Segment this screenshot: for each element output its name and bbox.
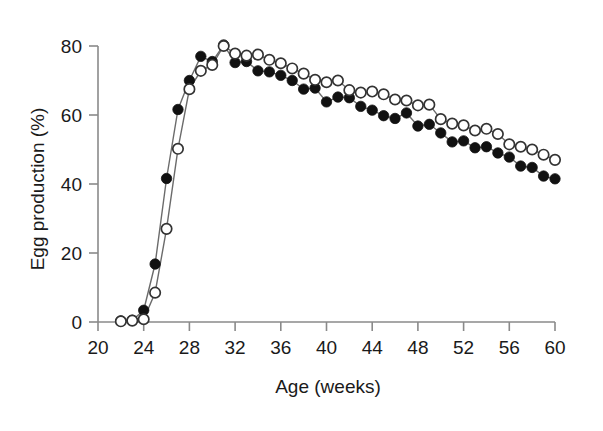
x-tick-label: 56	[499, 337, 520, 358]
data-point-open-circles	[356, 87, 366, 97]
data-point-open-circles	[230, 48, 240, 58]
data-point-closed-circles	[321, 97, 331, 107]
y-axis-ticks: 020406080	[61, 36, 98, 333]
data-point-closed-circles	[253, 66, 263, 76]
data-point-closed-circles	[447, 137, 457, 147]
data-point-open-circles	[116, 316, 126, 326]
x-tick-label: 40	[316, 337, 337, 358]
data-point-open-circles	[458, 120, 468, 130]
y-tick-label: 20	[61, 243, 82, 264]
data-point-open-circles	[333, 75, 343, 85]
data-point-open-circles	[470, 125, 480, 135]
data-point-open-circles	[390, 94, 400, 104]
data-point-closed-circles	[161, 173, 171, 183]
data-point-open-circles	[139, 314, 149, 324]
data-point-open-circles	[127, 315, 137, 325]
data-point-closed-circles	[287, 75, 297, 85]
x-axis-title: Age (weeks)	[198, 376, 458, 398]
data-point-closed-circles	[196, 51, 206, 61]
data-point-open-circles	[436, 114, 446, 124]
data-point-closed-circles	[401, 108, 411, 118]
chart-plot-area: 2024283236404448525660 020406080	[0, 0, 603, 431]
data-point-open-circles	[481, 124, 491, 134]
data-point-open-circles	[527, 144, 537, 154]
y-tick-label: 0	[71, 312, 82, 333]
data-point-closed-circles	[550, 174, 560, 184]
data-point-closed-circles	[264, 67, 274, 77]
data-point-open-circles	[310, 75, 320, 85]
data-point-open-circles	[538, 149, 548, 159]
egg-production-chart-figure: 2024283236404448525660 020406080 Egg pro…	[0, 0, 603, 431]
data-point-closed-circles	[481, 142, 491, 152]
data-point-closed-circles	[527, 162, 537, 172]
data-point-open-circles	[413, 100, 423, 110]
data-point-closed-circles	[333, 92, 343, 102]
data-point-closed-circles	[356, 101, 366, 111]
data-point-open-circles	[161, 224, 171, 234]
data-point-closed-circles	[298, 84, 308, 94]
data-point-open-circles	[264, 55, 274, 65]
data-point-open-circles	[287, 63, 297, 73]
data-point-open-circles	[550, 155, 560, 165]
data-point-open-circles	[516, 142, 526, 152]
y-tick-label: 60	[61, 105, 82, 126]
data-point-closed-circles	[390, 113, 400, 123]
data-point-closed-circles	[538, 171, 548, 181]
data-point-closed-circles	[493, 148, 503, 158]
data-point-closed-circles	[173, 104, 183, 114]
x-tick-label: 20	[87, 337, 108, 358]
data-point-closed-circles	[516, 161, 526, 171]
x-tick-label: 36	[270, 337, 291, 358]
y-tick-label: 80	[61, 36, 82, 57]
data-point-open-circles	[344, 85, 354, 95]
data-point-closed-circles	[470, 143, 480, 153]
x-tick-label: 32	[225, 337, 246, 358]
data-point-open-circles	[504, 139, 514, 149]
y-tick-label: 40	[61, 174, 82, 195]
data-point-open-circles	[367, 86, 377, 96]
x-tick-label: 52	[453, 337, 474, 358]
data-point-closed-circles	[150, 259, 160, 269]
data-point-open-circles	[207, 60, 217, 70]
data-point-open-circles	[298, 68, 308, 78]
data-point-open-circles	[424, 99, 434, 109]
data-point-open-circles	[321, 77, 331, 87]
data-point-open-circles	[276, 58, 286, 68]
data-point-open-circles	[378, 89, 388, 99]
data-point-open-circles	[150, 287, 160, 297]
data-point-open-circles	[196, 66, 206, 76]
data-point-closed-circles	[458, 136, 468, 146]
data-point-closed-circles	[413, 121, 423, 131]
x-tick-label: 24	[133, 337, 155, 358]
data-point-open-circles	[493, 129, 503, 139]
x-axis-ticks: 2024283236404448525660	[87, 322, 565, 358]
data-point-open-circles	[253, 49, 263, 59]
data-point-open-circles	[447, 118, 457, 128]
data-point-closed-circles	[276, 70, 286, 80]
data-point-closed-circles	[436, 128, 446, 138]
data-point-open-circles	[218, 41, 228, 51]
data-point-closed-circles	[378, 110, 388, 120]
data-point-open-circles	[173, 144, 183, 154]
series-data-markers	[116, 40, 561, 327]
data-point-closed-circles	[504, 152, 514, 162]
x-tick-label: 44	[362, 337, 384, 358]
x-tick-label: 48	[407, 337, 428, 358]
x-tick-label: 28	[179, 337, 200, 358]
data-point-closed-circles	[424, 119, 434, 129]
y-axis-title: Egg production (%)	[27, 69, 49, 309]
data-point-open-circles	[184, 84, 194, 94]
data-point-closed-circles	[367, 105, 377, 115]
data-point-open-circles	[401, 95, 411, 105]
x-tick-label: 60	[544, 337, 565, 358]
data-point-open-circles	[241, 50, 251, 60]
